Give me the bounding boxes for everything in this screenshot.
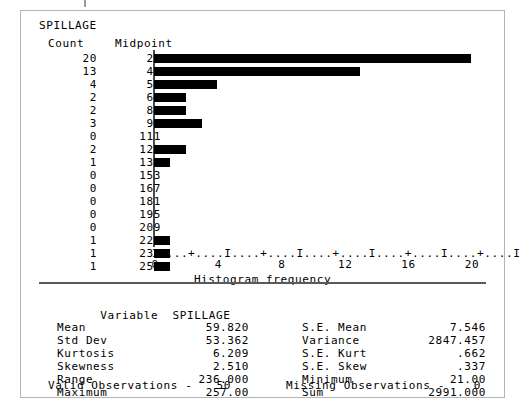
histogram-row: 269 (21, 91, 504, 104)
histogram-count: 1 (48, 234, 97, 247)
statistic-value: 7.546 (376, 321, 486, 334)
axis-tick-label: 12 (338, 258, 352, 271)
histogram-count: 1 (48, 260, 97, 273)
missing-observations-value: 0 (421, 379, 481, 392)
statistic-value: 6.209 (139, 347, 249, 360)
output-frame: SPILLAGE Count Midpoint 2027134145526928… (20, 10, 505, 398)
histogram-count: 2 (48, 104, 97, 117)
statistic-label: Std Dev (57, 334, 108, 347)
statistic-value: .337 (376, 360, 486, 373)
histogram-bar (154, 236, 170, 245)
stray-mark (84, 0, 86, 7)
histogram-row: 0209 (21, 221, 504, 234)
statistic-row: Std Dev53.362Variance2847.457 (21, 334, 504, 347)
statistic-value: 2.510 (139, 360, 249, 373)
histogram-count: 0 (48, 208, 97, 221)
statistic-value: 59.820 (139, 321, 249, 334)
histogram-row: 1251 (21, 260, 504, 273)
histogram-block: Count Midpoint 2027134145526928339701112… (21, 37, 504, 262)
column-header-count: Count (48, 37, 84, 50)
histogram-count: 0 (48, 182, 97, 195)
histogram-row: 1139 (21, 156, 504, 169)
statistic-label: Variance (302, 334, 360, 347)
histogram-midpoint: 153 (115, 169, 161, 182)
histogram-count: 1 (48, 247, 97, 260)
histogram-count: 1 (48, 156, 97, 169)
histogram-midpoint: 167 (115, 182, 161, 195)
axis-tick-label: 20 (465, 258, 479, 271)
histogram-bar (154, 145, 186, 154)
histogram-count: 13 (48, 65, 97, 78)
histogram-midpoint: 195 (115, 208, 161, 221)
page-title: SPILLAGE (39, 19, 97, 32)
axis-tick-label: 0 (151, 258, 158, 271)
histogram-row: 2027 (21, 52, 504, 65)
histogram-row: 2125 (21, 143, 504, 156)
histogram-row: 1223 (21, 234, 504, 247)
histogram-midpoint: 209 (115, 221, 161, 234)
histogram-count: 0 (48, 169, 97, 182)
statistic-label: S.E. Skew (302, 360, 367, 373)
statistic-row: Kurtosis6.209S.E. Kurt.662 (21, 347, 504, 360)
statistic-value: 53.362 (139, 334, 249, 347)
observations-footer: Valid Observations - 50 Missing Observat… (21, 379, 504, 393)
histogram-count: 0 (48, 221, 97, 234)
histogram-bar (154, 54, 471, 63)
histogram-bar (154, 93, 186, 102)
histogram-bar (154, 158, 170, 167)
statistic-label: Mean (57, 321, 86, 334)
axis-title: Histogram frequency (21, 273, 504, 286)
valid-observations-value: 50 (171, 379, 231, 392)
histogram-rows: 2027134145526928339701112125113901530167… (21, 52, 504, 273)
histogram-count: 0 (48, 195, 97, 208)
statistic-row: Skewness2.510S.E. Skew.337 (21, 360, 504, 373)
statistic-label: S.E. Mean (302, 321, 367, 334)
histogram-count: 2 (48, 91, 97, 104)
histogram-bar (154, 106, 186, 115)
statistic-value: 2847.457 (376, 334, 486, 347)
histogram-count: 0 (48, 130, 97, 143)
histogram-row: 0167 (21, 182, 504, 195)
histogram-midpoint: 181 (115, 195, 161, 208)
histogram-count: 3 (48, 117, 97, 130)
histogram-count: 2 (48, 143, 97, 156)
statistic-label: Kurtosis (57, 347, 115, 360)
histogram-row: 0195 (21, 208, 504, 221)
histogram-bar (154, 80, 217, 89)
statistic-label: S.E. Kurt (302, 347, 367, 360)
axis-tick-label: 4 (215, 258, 222, 271)
histogram-row: 0111 (21, 130, 504, 143)
column-header-midpoint: Midpoint (115, 37, 173, 50)
statistic-label: Skewness (57, 360, 115, 373)
histogram-row: 1341 (21, 65, 504, 78)
section-divider (39, 282, 486, 284)
histogram-row: 0181 (21, 195, 504, 208)
histogram-bar (154, 119, 202, 128)
histogram-bar (154, 67, 360, 76)
histogram-count: 4 (48, 78, 97, 91)
histogram-midpoint: 111 (115, 130, 161, 143)
histogram-row: 283 (21, 104, 504, 117)
axis-tick-label: 8 (278, 258, 285, 271)
statistic-row: Mean59.820S.E. Mean7.546 (21, 321, 504, 334)
histogram-row: 397 (21, 117, 504, 130)
histogram-count: 20 (48, 52, 97, 65)
axis-tick-label: 16 (401, 258, 415, 271)
statistic-value: .662 (376, 347, 486, 360)
histogram-row: 455 (21, 78, 504, 91)
histogram-row: 0153 (21, 169, 504, 182)
